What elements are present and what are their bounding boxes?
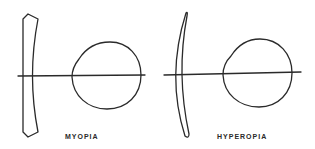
hyperopia-label: HYPEROPIA [217,133,267,140]
myopia-label: MYOPIA [65,133,99,140]
vision-correction-diagram: MYOPIA HYPEROPIA [0,0,315,149]
hyperopia-optical-axis [164,72,301,75]
hyperopia-panel [164,12,301,137]
myopia-optical-axis [18,75,145,76]
diagram-canvas [0,0,315,149]
myopia-panel [18,14,145,137]
